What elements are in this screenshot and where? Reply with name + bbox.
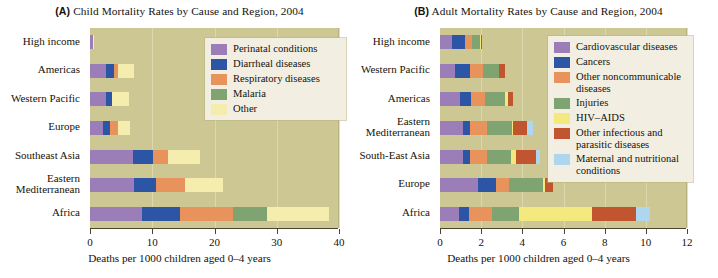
x-tick-label: 6 [549, 236, 579, 248]
bar-segment [463, 150, 470, 164]
legend-item: Malaria [211, 88, 339, 100]
bar-segment [440, 64, 455, 78]
bar-americas [440, 92, 513, 106]
bar-segment [118, 121, 130, 135]
bar-segment [516, 150, 536, 164]
legend-label: Injuries [576, 97, 608, 109]
legend-label: Other noncommunicable diseases [576, 71, 686, 94]
x-tick-label: 10 [631, 236, 661, 248]
bar-africa [440, 207, 650, 221]
bar-segment [440, 207, 459, 221]
bar-segment [459, 207, 469, 221]
y-axis-label: Americas [344, 93, 436, 105]
x-tick [215, 229, 216, 234]
x-tick [440, 229, 441, 234]
bar-segment [153, 150, 167, 164]
y-axis-label: Eastern Mediterranean [344, 116, 436, 139]
panel-a-title: (A) Child Mortality Rates by Cause and R… [0, 5, 359, 17]
x-tick [152, 229, 153, 234]
bar-segment [168, 150, 200, 164]
x-tick-label: 8 [590, 236, 620, 248]
y-axis-label: Southeast Asia [0, 150, 86, 162]
x-tick [90, 229, 91, 234]
panel-b-title: (B) Adult Mortality Rates by Cause and R… [359, 5, 718, 17]
bar-segment [513, 121, 528, 135]
bar-segment [185, 178, 223, 192]
x-tick-label: 2 [466, 236, 496, 248]
bar-segment [487, 150, 511, 164]
bar-segment [93, 35, 94, 49]
legend-swatch [211, 104, 227, 115]
legend-item: Other infectious and parasitic diseases [554, 127, 686, 150]
bar-southeast-asia [90, 150, 200, 164]
bar-segment [267, 207, 329, 221]
bar-segment [440, 178, 478, 192]
bar-segment [90, 178, 134, 192]
bar-segment [470, 64, 483, 78]
panel-a-y-axis-labels: High incomeAmericasWestern PacificEurope… [0, 28, 86, 228]
legend-swatch [211, 59, 227, 70]
y-axis-label: Western Pacific [0, 93, 86, 105]
legend-label: HIV–AIDS [576, 112, 625, 124]
legend-label: Diarrheal diseases [233, 58, 310, 70]
bar-segment [592, 207, 635, 221]
bar-segment [636, 207, 650, 221]
x-tick [277, 229, 278, 234]
bar-eastern-mediterranean [440, 121, 533, 135]
bar-segment [496, 178, 509, 192]
legend-item: Cardiovascular diseases [554, 41, 686, 53]
bar-segment [478, 178, 496, 192]
bar-americas [90, 64, 134, 78]
legend-item: Perinatal conditions [211, 43, 339, 55]
legend-item: HIV–AIDS [554, 112, 686, 124]
legend-swatch [554, 113, 570, 124]
y-axis-label: Africa [344, 207, 436, 219]
bar-segment [472, 35, 480, 49]
bar-segment [90, 64, 106, 78]
bar-segment [90, 121, 103, 135]
x-tick-label: 30 [262, 236, 292, 248]
y-axis-label: High income [0, 36, 86, 48]
legend-label: Other infectious and parasitic diseases [576, 127, 686, 150]
figure-two-panel-mortality: (A) Child Mortality Rates by Cause and R… [0, 0, 718, 278]
bar-segment [527, 121, 532, 135]
bar-segment [470, 150, 487, 164]
bar-segment [481, 35, 483, 49]
bar-segment [519, 207, 593, 221]
legend-label: Malaria [233, 88, 266, 100]
panel-a-title-text: Child Mortality Rates by Cause and Regio… [73, 5, 304, 17]
y-axis-label: High income [344, 36, 436, 48]
bar-segment [463, 121, 470, 135]
bar-segment [233, 207, 268, 221]
x-tick [564, 229, 565, 234]
x-tick-label: 4 [507, 236, 537, 248]
legend-item: Maternal and nutritional conditions [554, 153, 686, 176]
x-tick-label: 0 [75, 236, 105, 248]
legend-item: Diarrheal diseases [211, 58, 339, 70]
bar-europe [440, 178, 553, 192]
x-tick-label: 0 [425, 236, 455, 248]
bar-segment [492, 207, 519, 221]
panel-b-y-axis-labels: High incomeWestern PacificAmericasEaster… [350, 28, 436, 228]
bar-segment [483, 64, 498, 78]
x-tick [605, 229, 606, 234]
legend-label: Perinatal conditions [233, 43, 317, 55]
y-axis-label: South-East Asia [344, 150, 436, 162]
x-tick-label: 20 [200, 236, 230, 248]
x-tick [481, 229, 482, 234]
x-tick [522, 229, 523, 234]
bar-segment [133, 150, 154, 164]
legend-label: Respiratory diseases [233, 73, 320, 85]
bar-segment [487, 121, 512, 135]
bar-segment [470, 121, 487, 135]
bar-segment [90, 150, 133, 164]
bar-segment [536, 150, 540, 164]
bar-segment [112, 92, 129, 106]
bar-segment [485, 92, 505, 106]
gridline [152, 28, 153, 228]
legend-label: Cardiovascular diseases [576, 41, 678, 53]
bar-segment [469, 207, 491, 221]
bar-segment [156, 178, 185, 192]
legend-item: Respiratory diseases [211, 73, 339, 85]
legend-label: Cancers [576, 56, 610, 68]
